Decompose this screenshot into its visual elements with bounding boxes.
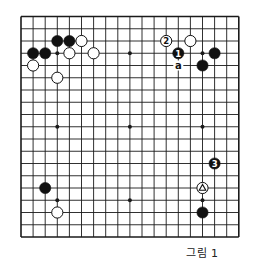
black-stone xyxy=(40,48,51,59)
white-stone xyxy=(52,72,63,83)
white-stone xyxy=(27,60,38,71)
black-stone xyxy=(197,60,208,71)
black-stone xyxy=(27,48,38,59)
black-stone xyxy=(64,35,75,46)
black-stone xyxy=(209,48,220,59)
markers: a xyxy=(173,60,183,71)
black-stone: 1 xyxy=(173,48,184,59)
white-stone xyxy=(88,48,99,59)
go-board: 213 a xyxy=(0,0,253,273)
move-number: 3 xyxy=(212,159,218,169)
black-stone xyxy=(197,207,208,218)
black-stone xyxy=(52,35,63,46)
white-stone xyxy=(185,35,196,46)
star-point xyxy=(201,51,205,55)
black-stone: 3 xyxy=(209,158,220,169)
white-stone xyxy=(64,48,75,59)
black-stone xyxy=(40,182,51,193)
star-point xyxy=(128,198,132,202)
star-point xyxy=(201,198,205,202)
star-point xyxy=(55,51,59,55)
star-point xyxy=(128,51,132,55)
star-point xyxy=(128,125,132,129)
star-point xyxy=(55,125,59,129)
white-stone: 2 xyxy=(161,35,172,46)
star-point xyxy=(55,198,59,202)
move-number: 2 xyxy=(163,36,169,46)
figure-caption: 그림 1 xyxy=(186,244,219,260)
move-number: 1 xyxy=(175,49,181,59)
white-stone xyxy=(76,35,87,46)
white-stone xyxy=(197,182,208,193)
white-stone xyxy=(52,207,63,218)
marker-label: a xyxy=(175,60,182,71)
star-point xyxy=(201,125,205,129)
